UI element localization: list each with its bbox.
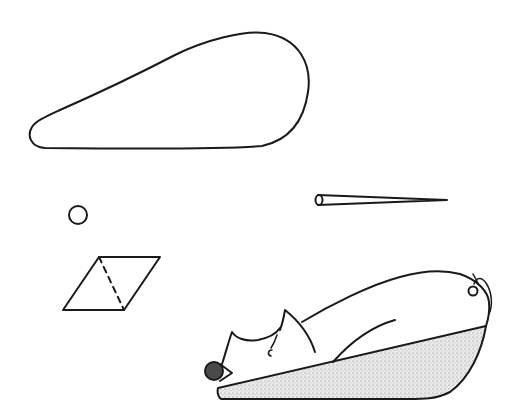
parallelogram-shape [63,257,160,310]
dashed-diagonal [99,257,124,310]
drawing-canvas [0,0,521,420]
teardrop-shape [30,32,309,148]
pig-figure [205,271,491,399]
snout-dot [205,362,223,380]
stippled-wedge [218,326,486,399]
small-circle-shape [69,206,87,224]
cone-needle-shape [316,195,448,205]
eye [268,350,272,356]
